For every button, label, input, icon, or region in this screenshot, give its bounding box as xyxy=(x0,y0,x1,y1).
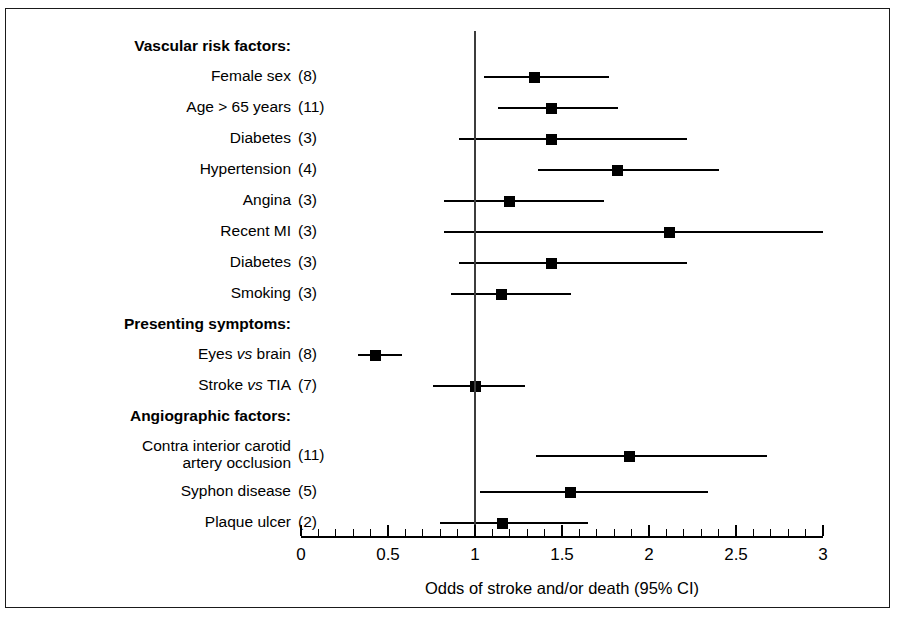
point-estimate-marker xyxy=(664,227,675,238)
x-axis-minor-tick xyxy=(335,529,336,536)
confidence-interval-line xyxy=(459,138,687,140)
point-estimate-marker xyxy=(624,451,635,462)
confidence-interval-line xyxy=(498,107,618,109)
x-axis-minor-tick xyxy=(405,529,406,536)
row-label: Diabetes xyxy=(230,253,291,270)
row-study-count: (3) xyxy=(298,191,317,208)
row-label: Plaque ulcer xyxy=(205,513,291,530)
confidence-interval-line xyxy=(444,200,604,202)
x-axis-minor-tick xyxy=(527,529,528,536)
row-label: Recent MI xyxy=(220,222,291,239)
confidence-interval-line xyxy=(484,76,609,78)
x-axis-minor-tick xyxy=(683,529,684,536)
x-axis-tick-label: 1 xyxy=(470,545,479,565)
row-study-count: (8) xyxy=(298,345,317,362)
x-axis-minor-tick xyxy=(718,529,719,536)
point-estimate-marker xyxy=(504,196,515,207)
point-estimate-marker xyxy=(497,518,508,529)
row-study-count: (3) xyxy=(298,129,317,146)
x-axis-minor-tick xyxy=(701,529,702,536)
row-label: Age > 65 years xyxy=(186,98,291,115)
x-axis-tick-label: 1.5 xyxy=(550,545,574,565)
row-study-count: (5) xyxy=(298,482,317,499)
row-label: Stroke vs TIA xyxy=(198,376,291,393)
row-label: Hypertension xyxy=(200,160,291,177)
point-estimate-marker xyxy=(546,134,557,145)
x-axis-title: Odds of stroke and/or death (95% CI) xyxy=(425,579,699,598)
row-study-count: (11) xyxy=(298,446,324,463)
confidence-interval-line xyxy=(444,231,823,233)
x-axis-line xyxy=(301,536,823,538)
x-axis-tick-label: 2 xyxy=(644,545,653,565)
confidence-interval-line xyxy=(536,455,767,457)
group-header-label: Angiographic factors: xyxy=(130,407,291,424)
x-axis-major-tick xyxy=(474,525,475,536)
x-axis-minor-tick xyxy=(509,529,510,536)
row-label: Syphon disease xyxy=(181,482,291,499)
x-axis-tick-label: 0.5 xyxy=(376,545,400,565)
row-study-count: (11) xyxy=(298,98,324,115)
x-axis-minor-tick xyxy=(544,529,545,536)
row-label: Angina xyxy=(243,191,291,208)
row-label: Contra interior carotidartery occlusion xyxy=(142,437,291,471)
x-axis-major-tick xyxy=(387,525,388,536)
x-axis-major-tick xyxy=(648,525,649,536)
group-header-label: Vascular risk factors: xyxy=(134,37,291,54)
row-study-count: (8) xyxy=(298,67,317,84)
point-estimate-marker xyxy=(529,72,540,83)
point-estimate-marker xyxy=(546,103,557,114)
x-axis-minor-tick xyxy=(579,529,580,536)
forest-plot: Vascular risk factors:Female sex(8)Age >… xyxy=(6,9,891,609)
x-axis-minor-tick xyxy=(770,529,771,536)
confidence-interval-line xyxy=(538,169,719,171)
confidence-interval-line xyxy=(451,293,571,295)
row-label: Diabetes xyxy=(230,129,291,146)
row-label: Smoking xyxy=(231,284,291,301)
x-axis-tick-label: 2.5 xyxy=(724,545,748,565)
x-axis-minor-tick xyxy=(353,529,354,536)
point-estimate-marker xyxy=(370,350,381,361)
x-axis-minor-tick xyxy=(666,529,667,536)
x-axis-tick-label: 0 xyxy=(296,545,305,565)
confidence-interval-line xyxy=(459,262,687,264)
x-axis-minor-tick xyxy=(318,529,319,536)
point-estimate-marker xyxy=(612,165,623,176)
x-axis-minor-tick xyxy=(596,529,597,536)
x-axis-tick-label: 3 xyxy=(818,545,827,565)
x-axis-minor-tick xyxy=(805,529,806,536)
point-estimate-marker xyxy=(496,289,507,300)
x-axis-major-tick xyxy=(561,525,562,536)
row-study-count: (7) xyxy=(298,376,317,393)
x-axis-minor-tick xyxy=(370,529,371,536)
x-axis-major-tick xyxy=(300,525,301,536)
x-axis-minor-tick xyxy=(788,529,789,536)
group-header-label: Presenting symptoms: xyxy=(124,315,291,332)
x-axis-minor-tick xyxy=(457,529,458,536)
figure-frame: Vascular risk factors:Female sex(8)Age >… xyxy=(5,8,890,608)
row-label: Female sex xyxy=(211,67,291,84)
x-axis-minor-tick xyxy=(492,529,493,536)
row-study-count: (3) xyxy=(298,284,317,301)
reference-line-at-one xyxy=(474,31,475,526)
point-estimate-marker xyxy=(546,258,557,269)
confidence-interval-line xyxy=(480,491,708,493)
row-study-count: (4) xyxy=(298,160,317,177)
x-axis-minor-tick xyxy=(753,529,754,536)
row-study-count: (3) xyxy=(298,253,317,270)
point-estimate-marker xyxy=(565,487,576,498)
x-axis-minor-tick xyxy=(422,529,423,536)
x-axis-minor-tick xyxy=(614,529,615,536)
row-label: Eyes vs brain xyxy=(198,345,291,362)
x-axis-major-tick xyxy=(735,525,736,536)
x-axis-minor-tick xyxy=(631,529,632,536)
x-axis-minor-tick xyxy=(440,529,441,536)
row-study-count: (3) xyxy=(298,222,317,239)
confidence-interval-line xyxy=(440,522,588,524)
x-axis-major-tick xyxy=(822,525,823,536)
